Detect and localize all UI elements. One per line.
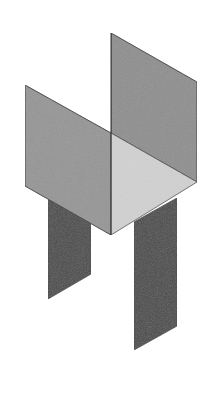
right-leg <box>134 198 177 350</box>
bracket-figure <box>0 0 214 415</box>
